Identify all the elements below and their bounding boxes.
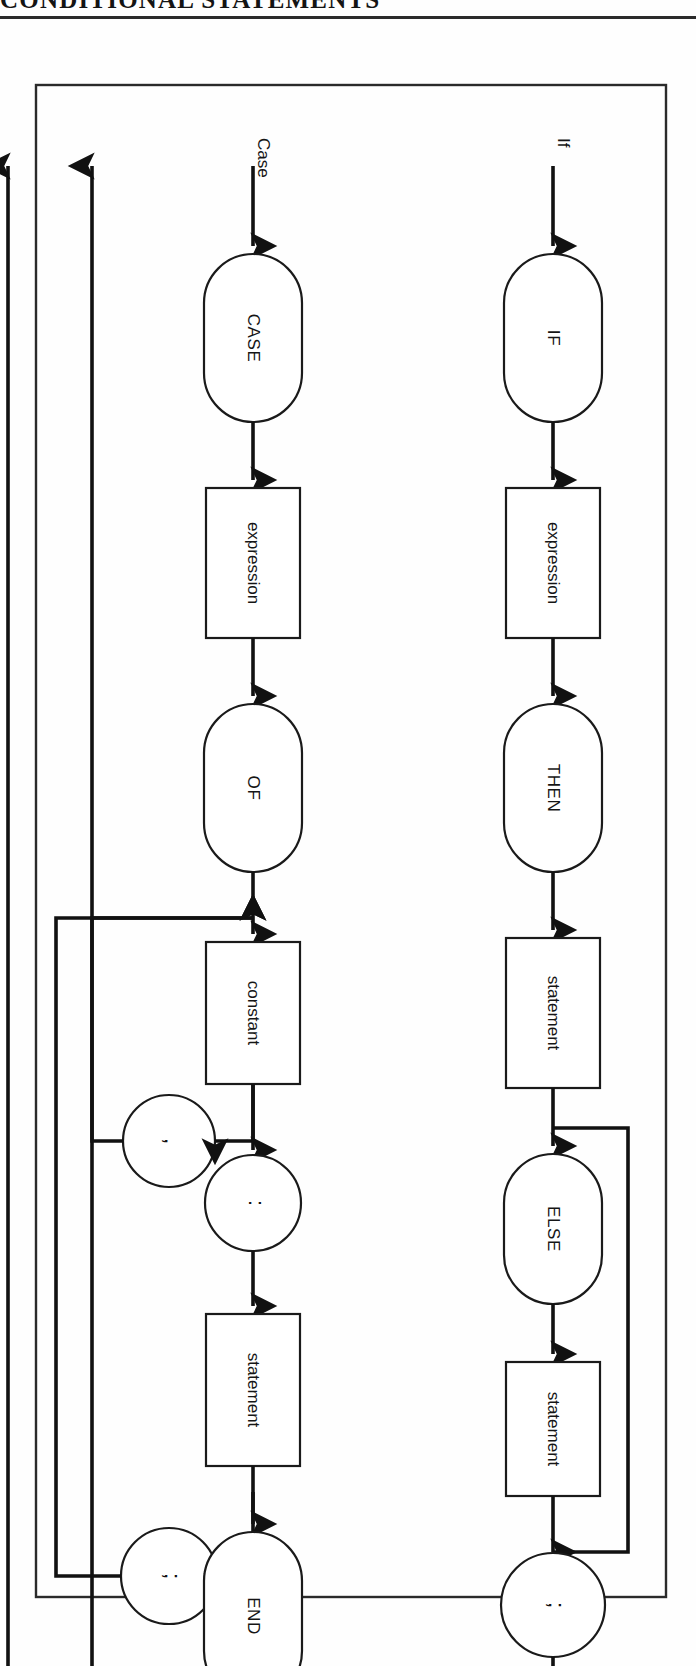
node-if-semicolon-label: ; <box>544 1602 569 1608</box>
node-else-statement-label: statement <box>544 1392 563 1467</box>
node-else-keyword-label: ELSE <box>544 1206 563 1252</box>
node-then-statement-label: statement <box>544 976 563 1051</box>
case-entry-label: Case <box>254 138 273 178</box>
if-rail-exit <box>92 166 553 1666</box>
page: CONDITIONAL STATEMENTS If <box>0 0 696 1666</box>
rule-case: Case CASE expression OF <box>8 138 512 1666</box>
node-then-keyword-label: THEN <box>544 764 563 813</box>
rule-if: If IF expression THEN <box>92 138 628 1666</box>
node-colon-label: : <box>244 1200 269 1206</box>
comma-loop-out <box>215 1084 253 1141</box>
node-case-statement-label: statement <box>244 1353 263 1428</box>
node-if-keyword-label: IF <box>544 330 563 346</box>
if-entry-label: If <box>554 138 573 148</box>
node-if-expression-label: expression <box>544 522 563 604</box>
railroad-diagram-svg: If IF expression THEN <box>0 0 696 1666</box>
node-case-semicolon-label: ; <box>160 1573 185 1579</box>
node-case-keyword-label: CASE <box>244 314 263 363</box>
node-end-keyword-label: END <box>244 1597 263 1635</box>
node-comma-label: , <box>160 1138 185 1144</box>
node-of-keyword-label: OF <box>244 776 263 801</box>
node-constant-label: constant <box>244 981 263 1046</box>
node-case-expression-label: expression <box>244 522 263 604</box>
syntax-diagram-figure: If IF expression THEN <box>0 0 696 1666</box>
